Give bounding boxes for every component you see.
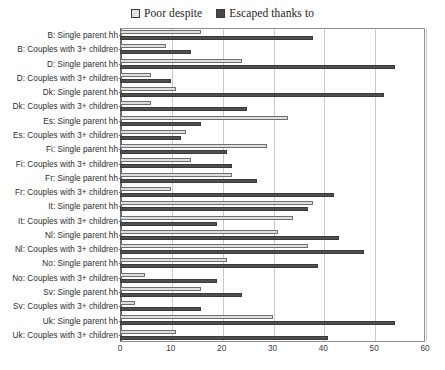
category-label: Es: Couples with 3+ children [2, 131, 118, 140]
category-label: Nl: Single parent hh [2, 230, 118, 239]
legend-swatch-poor-despite [131, 9, 140, 18]
chart-row: D: Single parent hh [0, 57, 445, 71]
x-axis-tick-label: 10 [166, 344, 175, 353]
bar-poor-despite [120, 187, 171, 191]
bar-escaped-thanks-to [120, 222, 217, 226]
bar-group [120, 42, 425, 56]
bar-poor-despite [120, 158, 191, 162]
bar-group [120, 242, 425, 256]
bar-poor-despite [120, 258, 227, 262]
category-label: No: Single parent hh [2, 259, 118, 268]
bar-poor-despite [120, 173, 232, 177]
category-label: Nl: Couples with 3+ children [2, 245, 118, 254]
bar-group [120, 185, 425, 199]
category-label: It: Single parent hh [2, 202, 118, 211]
bar-escaped-thanks-to [120, 321, 395, 325]
bar-group [120, 256, 425, 270]
bar-poor-despite [120, 144, 267, 148]
bar-group [120, 228, 425, 242]
bar-escaped-thanks-to [120, 122, 201, 126]
bar-group [120, 85, 425, 99]
legend-swatch-escaped-thanks-to [216, 9, 225, 18]
x-axis-tick-label: 0 [118, 344, 123, 353]
bar-group [120, 171, 425, 185]
bar-escaped-thanks-to [120, 79, 171, 83]
bar-escaped-thanks-to [120, 164, 232, 168]
chart-row: Nl: Couples with 3+ children [0, 242, 445, 256]
bar-escaped-thanks-to [120, 93, 384, 97]
bar-group [120, 328, 425, 342]
bar-escaped-thanks-to [120, 107, 247, 111]
bar-poor-despite [120, 230, 278, 234]
bar-chart: Poor despite Escaped thanks to B: Single… [0, 0, 445, 370]
category-label: Fi: Single parent hh [2, 145, 118, 154]
chart-row: No: Couples with 3+ children [0, 271, 445, 285]
chart-row: D: Couples with 3+ children [0, 71, 445, 85]
bar-poor-despite [120, 73, 151, 77]
bar-poor-despite [120, 44, 166, 48]
bar-poor-despite [120, 287, 201, 291]
chart-row: Uk: Couples with 3+ children [0, 328, 445, 342]
chart-row: Fi: Single parent hh [0, 142, 445, 156]
bar-escaped-thanks-to [120, 136, 181, 140]
bar-poor-despite [120, 116, 288, 120]
category-label: B: Couples with 3+ children [2, 45, 118, 54]
chart-legend: Poor despite Escaped thanks to [0, 8, 445, 20]
chart-row: Fr: Single parent hh [0, 171, 445, 185]
bar-poor-despite [120, 244, 308, 248]
bar-escaped-thanks-to [120, 50, 191, 54]
bar-poor-despite [120, 315, 273, 319]
chart-row: It: Couples with 3+ children [0, 214, 445, 228]
x-axis-tick-label: 40 [319, 344, 328, 353]
bar-poor-despite [120, 216, 293, 220]
category-label: D: Couples with 3+ children [2, 73, 118, 82]
legend-item-escaped-thanks-to: Escaped thanks to [216, 8, 314, 20]
x-axis-tick-label: 30 [268, 344, 277, 353]
category-label: Fi: Couples with 3+ children [2, 159, 118, 168]
chart-row: Nl: Single parent hh [0, 228, 445, 242]
bar-escaped-thanks-to [120, 150, 227, 154]
bar-group [120, 128, 425, 142]
bar-group [120, 156, 425, 170]
bar-group [120, 271, 425, 285]
bar-group [120, 114, 425, 128]
category-label: Sv: Couples with 3+ children [2, 302, 118, 311]
bar-group [120, 214, 425, 228]
bar-group [120, 285, 425, 299]
chart-row: Fr: Couples with 3+ children [0, 185, 445, 199]
chart-row: Es: Single parent hh [0, 114, 445, 128]
x-axis-tick-label: 20 [217, 344, 226, 353]
category-label: Sv: Single parent hh [2, 288, 118, 297]
category-label: Fr: Single parent hh [2, 173, 118, 182]
bar-group [120, 199, 425, 213]
bar-poor-despite [120, 273, 145, 277]
bar-escaped-thanks-to [120, 193, 334, 197]
legend-label-poor-despite: Poor despite [144, 8, 202, 20]
bar-poor-despite [120, 301, 135, 305]
category-label: D: Single parent hh [2, 59, 118, 68]
chart-row: B: Single parent hh [0, 28, 445, 42]
bar-group [120, 28, 425, 42]
chart-row: No: Single parent hh [0, 256, 445, 270]
category-label: No: Couples with 3+ children [2, 273, 118, 282]
chart-row: B: Couples with 3+ children [0, 42, 445, 56]
legend-item-poor-despite: Poor despite [131, 8, 202, 20]
category-label: Uk: Single parent hh [2, 316, 118, 325]
bar-escaped-thanks-to [120, 36, 313, 40]
chart-row: Dk: Single parent hh [0, 85, 445, 99]
bar-escaped-thanks-to [120, 293, 242, 297]
bar-escaped-thanks-to [120, 279, 217, 283]
category-label: It: Couples with 3+ children [2, 216, 118, 225]
chart-row: Es: Couples with 3+ children [0, 128, 445, 142]
bar-group [120, 313, 425, 327]
x-axis-tick-label: 60 [420, 344, 429, 353]
x-axis: 0102030405060 [120, 344, 425, 360]
chart-row: Uk: Single parent hh [0, 313, 445, 327]
category-label: Fr: Couples with 3+ children [2, 188, 118, 197]
bar-group [120, 299, 425, 313]
chart-rows: B: Single parent hhB: Couples with 3+ ch… [0, 28, 445, 342]
bar-escaped-thanks-to [120, 250, 364, 254]
category-label: B: Single parent hh [2, 31, 118, 40]
bar-escaped-thanks-to [120, 179, 257, 183]
chart-row: Sv: Couples with 3+ children [0, 299, 445, 313]
